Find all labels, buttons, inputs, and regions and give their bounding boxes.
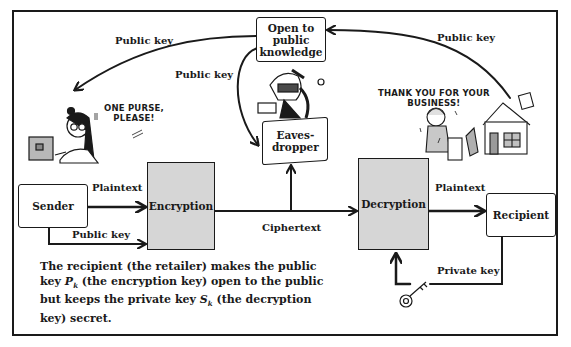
- recipient-label: Recipient: [493, 209, 549, 221]
- label-public-key-from-recipient: Public key: [437, 32, 495, 43]
- customer-speech-line-1: ONE PURSE,: [104, 103, 164, 113]
- pk-symbol: P: [65, 275, 73, 288]
- public-knowledge-line-3: knowledge: [260, 46, 323, 58]
- sk-symbol: S: [200, 293, 208, 306]
- public-knowledge-box: Open to public knowledge: [256, 17, 326, 62]
- eavesdropper-illustration: [258, 70, 324, 118]
- label-recipient-plaintext: Plaintext: [435, 182, 485, 193]
- label-private-key: Private key: [437, 265, 499, 276]
- caption: The recipient (the retailer) makes the p…: [40, 260, 340, 326]
- retailer-speech: THANK YOU FOR YOUR BUSINESS!: [378, 88, 490, 108]
- public-knowledge-line-1: Open to: [260, 22, 323, 34]
- key-icon: [400, 282, 427, 307]
- recipient-box: Recipient: [486, 193, 556, 237]
- customer-speech-line-2: PLEASE!: [104, 113, 164, 123]
- decryption-box: Decryption: [358, 158, 429, 250]
- label-ciphertext: Ciphertext: [262, 222, 321, 233]
- eavesdropper-line-2: dropper: [272, 141, 319, 153]
- sender-box: Sender: [18, 184, 88, 228]
- label-sender-plaintext: Plaintext: [92, 182, 142, 193]
- label-public-key-to-sender: Public key: [115, 35, 173, 46]
- public-knowledge-line-2: public: [260, 34, 323, 46]
- sender-label: Sender: [32, 200, 73, 212]
- retailer-speech-line-2: BUSINESS!: [378, 98, 490, 108]
- label-sender-public-key: Public key: [72, 229, 130, 240]
- label-public-key-to-eavesdropper: Public key: [175, 69, 233, 80]
- arrow-public-key-to-eavesdropper: [238, 48, 258, 145]
- eavesdropper-line-1: Eaves-: [272, 129, 319, 141]
- retailer-speech-line-1: THANK YOU FOR YOUR: [378, 88, 490, 98]
- encryption-label: Encryption: [149, 200, 213, 212]
- customer-speech: ONE PURSE, PLEASE!: [104, 103, 164, 123]
- decryption-label: Decryption: [361, 198, 426, 210]
- encryption-box: Encryption: [147, 162, 215, 250]
- arrow-private-key-to-decryption: [396, 254, 410, 284]
- eavesdropper-box: Eaves- dropper: [262, 117, 328, 166]
